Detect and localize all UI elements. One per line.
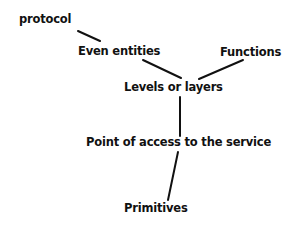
edge-protocol-even-entities — [78, 31, 100, 41]
node-functions: Functions — [220, 45, 281, 59]
node-even-entities: Even entities — [78, 44, 160, 58]
node-protocol: protocol — [19, 12, 71, 26]
edge-access-point-primitives — [168, 152, 178, 200]
node-point-of-access: Point of access to the service — [86, 135, 271, 149]
edge-even-entities-levels — [143, 60, 181, 78]
connector-lines — [0, 0, 306, 225]
node-primitives: Primitives — [124, 201, 188, 215]
edge-functions-levels — [199, 60, 243, 79]
node-levels-or-layers: Levels or layers — [124, 80, 223, 94]
